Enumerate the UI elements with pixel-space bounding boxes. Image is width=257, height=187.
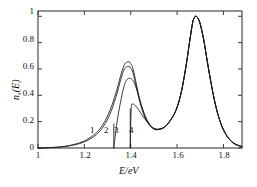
y-axis-title-sub: s xyxy=(15,92,23,95)
xtick-label-1: 1.2 xyxy=(75,150,95,160)
y-axis-title-base: n xyxy=(10,95,21,100)
curve-label-2: 2 xyxy=(104,125,109,135)
ytick-label-5: 1 xyxy=(14,6,34,16)
xtick-label-3: 1.6 xyxy=(168,150,188,160)
ytick-label-1: 0.2 xyxy=(8,115,34,125)
data-curves xyxy=(38,16,242,148)
ytick-label-4: 0.8 xyxy=(8,34,34,44)
plot-border xyxy=(38,11,242,148)
xtick-label-0: 1 xyxy=(28,150,48,160)
ytick-label-3: 0.6 xyxy=(8,61,34,71)
x-axis-title: E/eV xyxy=(119,165,138,176)
curve-1 xyxy=(38,16,242,148)
curve-2 xyxy=(38,16,242,148)
figure-container: 0 0.2 0.4 0.6 0.8 1 1 1.2 1.4 1.6 1.8 ns… xyxy=(0,0,257,187)
y-axis-title: ns(E) xyxy=(10,79,23,100)
curve-label-4: 4 xyxy=(129,125,134,135)
axis-ticks xyxy=(38,11,242,148)
curve-label-3: 3 xyxy=(114,125,119,135)
y-axis-title-arg: (E) xyxy=(10,79,21,92)
xtick-label-4: 1.8 xyxy=(214,150,234,160)
curve-4 xyxy=(130,16,242,148)
curve-label-1: 1 xyxy=(90,125,95,135)
plot-frame xyxy=(38,11,242,148)
xtick-label-2: 1.4 xyxy=(121,150,141,160)
